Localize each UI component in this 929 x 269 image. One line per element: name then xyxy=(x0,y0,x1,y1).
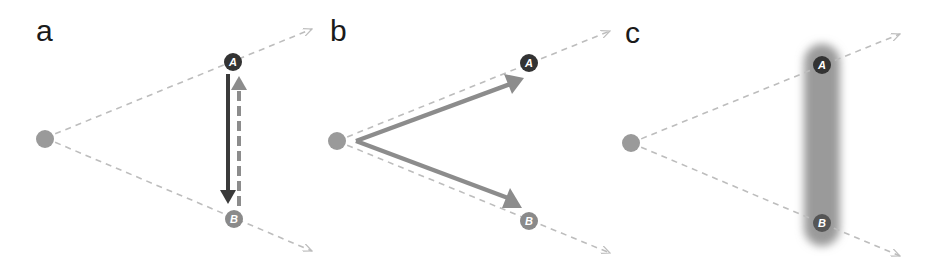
svg-text:B: B xyxy=(230,213,238,225)
arrow-origin-to-a xyxy=(356,74,524,141)
node-b: B xyxy=(813,214,831,232)
origin-dot xyxy=(622,134,640,152)
ray-upper xyxy=(45,29,312,138)
node-b: B xyxy=(520,212,538,230)
svg-text:B: B xyxy=(525,215,533,227)
panel-a-diagram: A B xyxy=(0,0,320,269)
panel-c-diagram: A B xyxy=(610,0,929,269)
node-a: A xyxy=(224,53,242,71)
arrow-origin-to-b xyxy=(356,141,522,208)
arrow-b-to-a xyxy=(231,76,247,206)
svg-text:A: A xyxy=(524,57,533,69)
ray-lower xyxy=(45,138,312,251)
panel-c: c A B xyxy=(610,0,929,269)
ray-lower xyxy=(631,143,900,256)
arrow-a-to-b xyxy=(220,74,236,204)
origin-dot xyxy=(328,132,346,150)
svg-text:A: A xyxy=(228,56,237,68)
ray-upper xyxy=(337,31,610,141)
panel-a: a A B xyxy=(0,0,320,269)
panel-b: b A B xyxy=(310,0,620,269)
panel-b-diagram: A B xyxy=(310,0,620,269)
svg-text:B: B xyxy=(818,217,826,229)
node-a: A xyxy=(520,54,538,72)
ray-upper xyxy=(631,34,900,143)
node-b: B xyxy=(225,210,243,228)
node-a: A xyxy=(813,56,831,74)
origin-dot xyxy=(36,130,54,148)
ray-lower xyxy=(337,141,610,253)
svg-text:A: A xyxy=(817,59,826,71)
